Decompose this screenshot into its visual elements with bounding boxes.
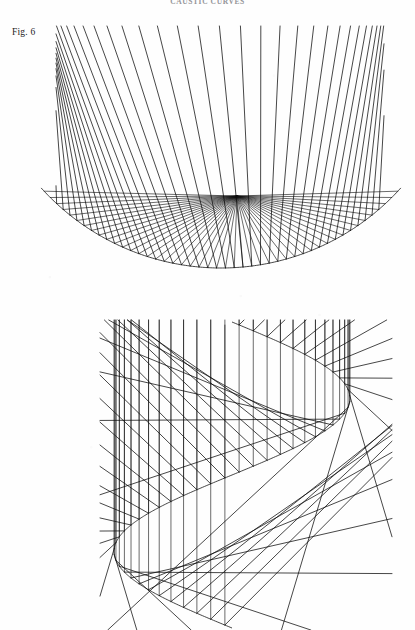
upper-reflected-ray bbox=[83, 26, 173, 263]
upper-incident-ray bbox=[237, 196, 335, 239]
upper-reflected-ray bbox=[240, 26, 251, 266]
lower-reflected-ray bbox=[159, 435, 392, 596]
lower-reflected-ray bbox=[253, 320, 264, 331]
lower-reflected-ray bbox=[100, 333, 239, 472]
lower-reflected-ray bbox=[348, 390, 392, 431]
lower-reflected-ray bbox=[149, 452, 392, 589]
lower-reflected-ray bbox=[293, 320, 329, 348]
lower-reflected-ray bbox=[171, 426, 392, 602]
lower-reflected-ray bbox=[333, 359, 392, 372]
upper-incident-ray bbox=[237, 196, 311, 251]
lower-reflected-ray bbox=[239, 320, 244, 325]
lower-reflected-ray bbox=[225, 458, 392, 626]
upper-incident-ray bbox=[234, 196, 237, 268]
lower-reflected-ray bbox=[211, 441, 392, 619]
upper-reflected-ray bbox=[56, 63, 92, 230]
lower-reflected-ray bbox=[345, 384, 392, 400]
lower-reflected-ray bbox=[100, 466, 159, 507]
lower-reflected-ray bbox=[116, 560, 191, 630]
upper-reflected-ray bbox=[269, 26, 280, 263]
upper-incident-ray bbox=[164, 196, 237, 261]
lower-reflected-ray bbox=[114, 554, 137, 630]
lower-reflected-ray bbox=[267, 320, 285, 337]
upper-reflected-ray bbox=[379, 116, 384, 210]
lower-reflected-ray bbox=[127, 320, 280, 454]
lower-reflected-ray bbox=[118, 320, 267, 460]
figure-page: CAUSTIC CURVES Fig. 6 bbox=[0, 0, 415, 630]
upper-incident-ray bbox=[237, 196, 286, 259]
lower-reflected-ray bbox=[315, 320, 386, 360]
panel-lower-scurve-caustic bbox=[100, 320, 392, 630]
upper-reflected-ray bbox=[157, 26, 216, 268]
upper-reflected-ray bbox=[56, 69, 84, 226]
lower-reflected-ray bbox=[100, 419, 340, 420]
upper-reflected-ray bbox=[303, 26, 340, 254]
figure-canvas bbox=[0, 0, 415, 630]
lower-reflected-ray bbox=[100, 518, 131, 525]
lower-reflected-ray bbox=[108, 407, 348, 630]
lower-reflected-ray bbox=[119, 566, 310, 630]
lower-reflected-ray bbox=[350, 396, 392, 537]
lower-reflected-ray bbox=[325, 338, 392, 366]
lower-mirror-scurve bbox=[114, 322, 350, 628]
lower-reflected-ray bbox=[100, 353, 225, 478]
upper-reflected-ray bbox=[350, 26, 380, 230]
lower-reflected-ray bbox=[184, 424, 392, 607]
panel-upper-circular-caustic bbox=[41, 26, 401, 268]
upper-incident-ray bbox=[139, 196, 237, 254]
lower-reflected-ray bbox=[305, 320, 355, 354]
upper-reflected-ray bbox=[56, 111, 63, 210]
lower-reflected-ray bbox=[104, 320, 253, 466]
upper-reflected-ray bbox=[56, 186, 57, 204]
upper-incident-ray bbox=[147, 196, 237, 256]
